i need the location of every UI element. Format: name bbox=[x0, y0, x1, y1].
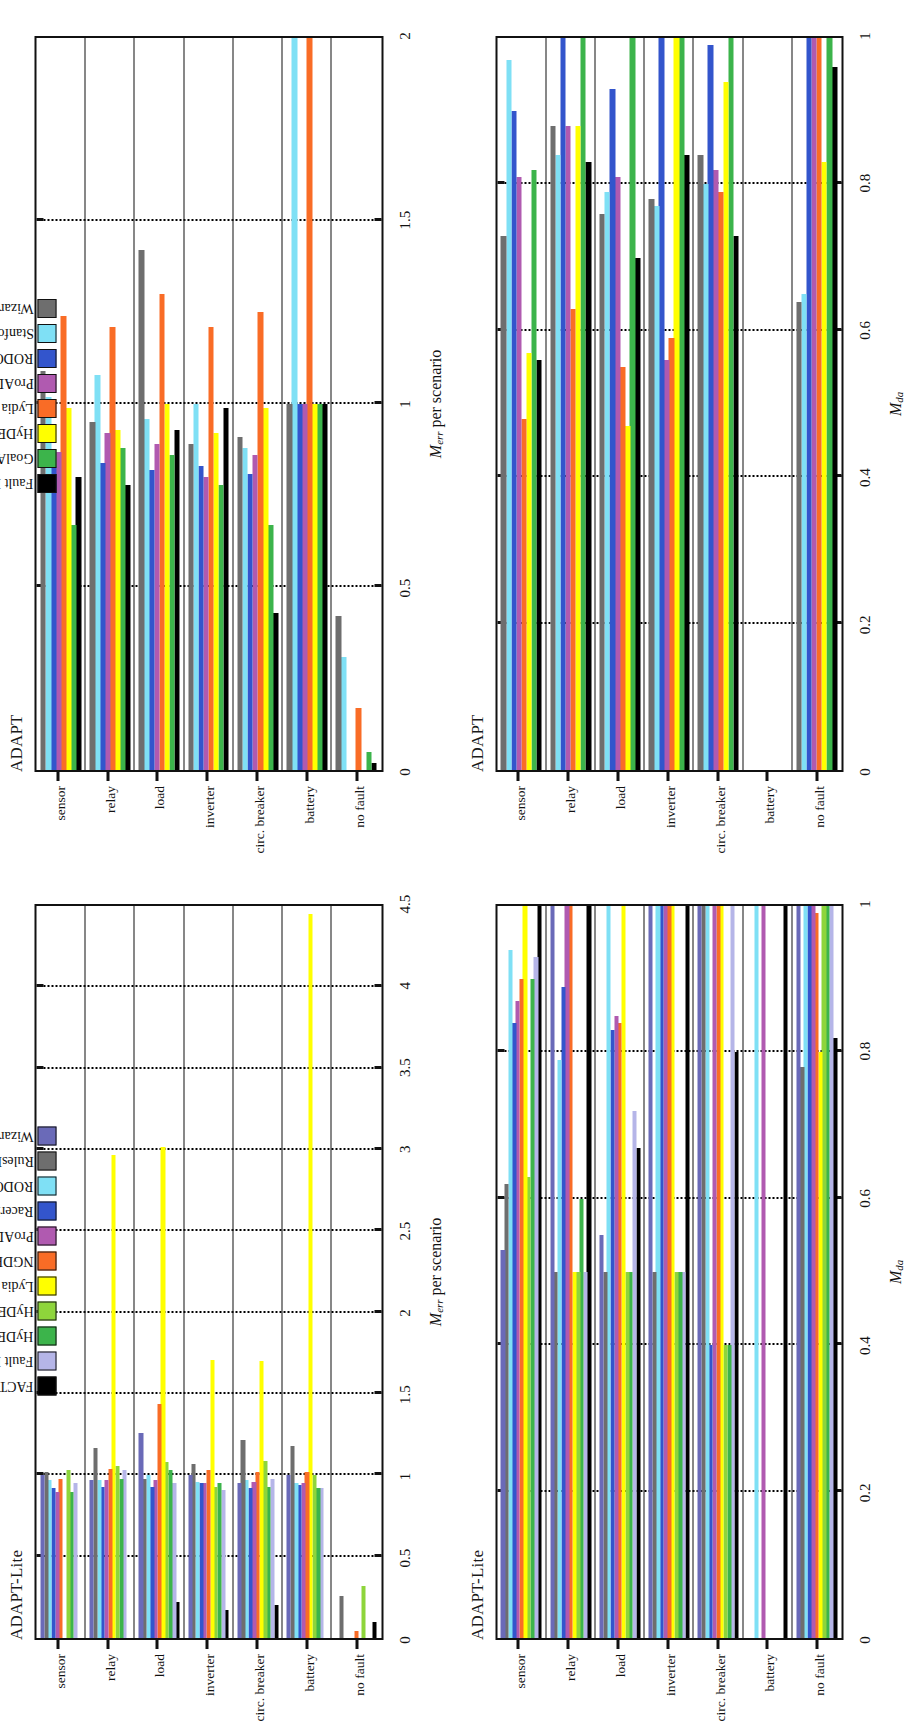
axis-tick bbox=[34, 218, 43, 221]
legend-swatch-cell bbox=[37, 1124, 56, 1149]
category-separator bbox=[84, 906, 85, 1638]
category-tick bbox=[815, 1638, 818, 1649]
legend-swatch-cell bbox=[37, 1199, 56, 1224]
legend-swatch bbox=[37, 349, 56, 368]
bar bbox=[40, 1475, 44, 1638]
category-separator bbox=[742, 906, 743, 1638]
axis-tick bbox=[495, 1049, 504, 1052]
axis-tick bbox=[374, 1391, 383, 1394]
category-label: no fault bbox=[351, 1654, 367, 1696]
axis-tick-label: 1.5 bbox=[396, 1385, 413, 1404]
legend-swatch-cell bbox=[37, 1224, 56, 1249]
axis-tick-label: 2 bbox=[396, 1309, 413, 1317]
bar bbox=[697, 155, 703, 770]
category-tick bbox=[516, 770, 519, 781]
axis-tick bbox=[374, 904, 383, 906]
axis-tick bbox=[495, 181, 504, 184]
legend-label-cell: Lydia bbox=[1, 1274, 33, 1299]
axis-tick bbox=[374, 584, 383, 587]
category-separator bbox=[281, 38, 282, 770]
legend-swatch bbox=[37, 399, 56, 418]
panel-adapt-merr: ADAPT00.511.52Merr per scenariono faultb… bbox=[0, 0, 461, 868]
category-separator bbox=[84, 38, 85, 770]
legend-label-cell: NGDE bbox=[0, 1249, 33, 1274]
axis-tick bbox=[374, 401, 383, 404]
legend-swatch-cell bbox=[37, 1249, 56, 1274]
axis-tick bbox=[834, 36, 843, 38]
axis-tick-label: 0 bbox=[856, 768, 873, 776]
gridline bbox=[36, 1067, 381, 1069]
category-tick bbox=[305, 770, 308, 781]
legend-swatch-cell bbox=[37, 296, 56, 321]
legend-label-cell: ProADAPT bbox=[0, 371, 33, 396]
category-tick bbox=[616, 770, 619, 781]
axis-tick bbox=[34, 36, 43, 38]
category-label: battery bbox=[301, 786, 317, 823]
legend-swatch-cell bbox=[37, 1374, 56, 1399]
category-separator bbox=[594, 906, 595, 1638]
legend-swatch bbox=[37, 449, 56, 468]
gridline bbox=[36, 1392, 381, 1394]
bar bbox=[761, 906, 765, 1638]
figure-page: ADAPT-Lite00.511.522.533.544.5Merr per s… bbox=[0, 0, 921, 1736]
legend-label-cell: StanfordDA bbox=[0, 321, 33, 346]
bar bbox=[648, 199, 654, 770]
legend-label-cell: Fault Buster bbox=[0, 1349, 33, 1374]
category-label: load bbox=[612, 1654, 628, 1677]
plot-title: ADAPT bbox=[467, 714, 487, 772]
axis-tick-label: 1 bbox=[856, 32, 873, 40]
bar bbox=[286, 404, 292, 770]
legend-swatch bbox=[37, 1252, 56, 1271]
axis-tick bbox=[34, 984, 43, 987]
legend-label-cell: Lydia bbox=[1, 396, 33, 421]
legend-label: Lydia bbox=[1, 396, 33, 422]
plot-title: ADAPT-Lite bbox=[6, 1550, 26, 1640]
legend-label: Wizards of Oz bbox=[0, 296, 33, 322]
bar bbox=[355, 708, 361, 770]
legend-holder: FACTFault BusterHyDEHyDE-SLydiaNGDEProAD… bbox=[0, 1124, 56, 1399]
legend-swatch bbox=[37, 374, 56, 393]
legend-swatch-cell bbox=[37, 446, 56, 471]
category-label: sensor bbox=[52, 1654, 68, 1689]
category-tick bbox=[155, 1638, 158, 1649]
category-tick bbox=[666, 770, 669, 781]
axis-tick-label: 3.5 bbox=[396, 1058, 413, 1077]
legend-swatch bbox=[37, 424, 56, 443]
category-label: inverter bbox=[662, 786, 678, 828]
plot-area: 00.511.522.533.544.5Merr per scenariono … bbox=[34, 904, 383, 1640]
gridline bbox=[497, 182, 842, 184]
category-separator bbox=[281, 906, 282, 1638]
bar bbox=[237, 437, 243, 770]
bar bbox=[783, 906, 787, 1638]
axis-tick-label: 4 bbox=[396, 982, 413, 990]
category-tick bbox=[716, 770, 719, 781]
axis-tick bbox=[374, 984, 383, 987]
legend-swatch-cell bbox=[37, 421, 56, 446]
axis-tick-label: 1.5 bbox=[396, 211, 413, 230]
category-tick bbox=[205, 1638, 208, 1649]
bar bbox=[500, 236, 506, 770]
bar bbox=[237, 1483, 241, 1638]
category-tick bbox=[815, 770, 818, 781]
bar bbox=[335, 616, 341, 770]
legend-labels: Fault BusterGoalArtHyDELydiaProADAPTRODO… bbox=[0, 296, 33, 496]
bar bbox=[697, 906, 701, 1638]
bar bbox=[550, 126, 556, 770]
bar bbox=[339, 1596, 343, 1638]
category-separator bbox=[330, 906, 331, 1638]
legend-label: Wizards of Oz bbox=[0, 1123, 33, 1149]
legend-label: ProADAPT bbox=[0, 371, 33, 397]
category-separator bbox=[692, 38, 693, 770]
bar bbox=[89, 1480, 93, 1638]
value-axis-label: Mda bbox=[886, 392, 905, 416]
legend-swatch-cell bbox=[37, 321, 56, 346]
category-label: circ. breaker bbox=[251, 786, 267, 853]
plot-frame bbox=[34, 904, 383, 1640]
category-tick bbox=[106, 770, 109, 781]
category-tick bbox=[765, 770, 768, 781]
category-label: no fault bbox=[811, 1654, 827, 1696]
legend-swatches bbox=[37, 296, 56, 496]
legend-label-cell: RODON bbox=[0, 346, 33, 371]
category-label: no fault bbox=[811, 786, 827, 828]
legend-label-cell: Wizards of Oz bbox=[0, 296, 33, 321]
